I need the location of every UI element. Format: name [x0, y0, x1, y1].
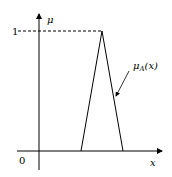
origin-label: 0 — [19, 155, 25, 166]
max-value-label: 1 — [12, 26, 18, 37]
membership-function-diagram: 1 μ 0 x μA(x) — [0, 0, 172, 177]
y-axis-label: μ — [47, 14, 54, 25]
triangle-curve — [81, 31, 123, 151]
x-axis-label: x — [150, 157, 156, 168]
curve-label-leader — [116, 71, 129, 96]
curve-label: μA(x) — [133, 60, 158, 73]
